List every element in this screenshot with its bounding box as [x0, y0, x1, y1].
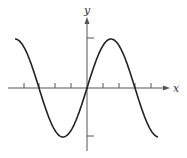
sine-graph: x y	[0, 0, 187, 158]
y-axis-label: y	[83, 4, 91, 17]
x-axis-label: x	[173, 82, 180, 95]
y-axis-arrow-icon	[85, 17, 90, 24]
x-axis-arrow-icon	[163, 86, 170, 91]
x-axis	[8, 86, 170, 91]
